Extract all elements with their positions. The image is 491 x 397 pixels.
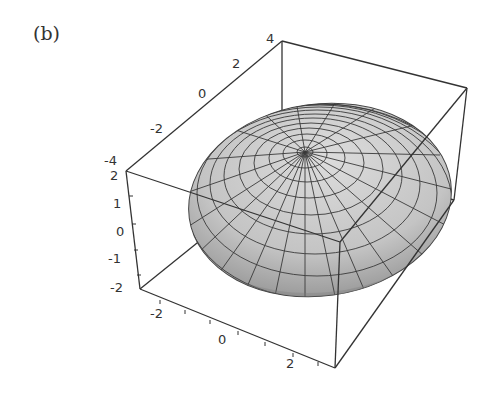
x-tick-label: 2: [286, 356, 294, 371]
z-tick-label: -2: [110, 280, 123, 295]
y-tick-label: -2: [150, 121, 163, 136]
z-tick-label: 1: [113, 196, 121, 211]
y-tick-label: -4: [104, 153, 117, 168]
panel-label: (b): [33, 22, 60, 44]
z-tick-label: 2: [110, 168, 118, 183]
ellipsoid-surface: [156, 87, 488, 374]
y-tick-label: 0: [198, 86, 206, 101]
ellipsoid-figure: (b): [0, 0, 491, 397]
z-tick-label: 0: [116, 224, 124, 239]
x-tick-label: -2: [150, 306, 163, 321]
x-tick-label: 0: [218, 332, 226, 347]
plot-3d: -4 -2 0 2 4 2 1 0 -1 -2 -2 0 2: [0, 0, 491, 397]
z-tick-label: -1: [108, 251, 121, 266]
y-tick-label: 2: [232, 56, 240, 71]
y-tick-label: 4: [266, 31, 274, 46]
